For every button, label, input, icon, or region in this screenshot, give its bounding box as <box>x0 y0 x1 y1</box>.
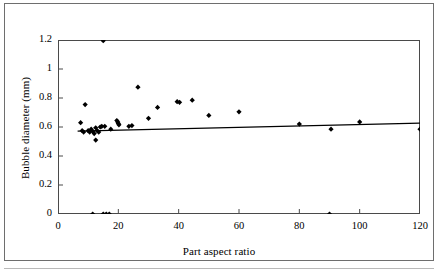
y-axis-title: Bubble diameter (mm) <box>19 41 31 215</box>
data-point-marker <box>357 119 362 124</box>
x-tick-label: 20 <box>98 220 138 231</box>
x-axis-title: Part aspect ratio <box>0 245 438 257</box>
y-tick-label: 1.2 <box>12 33 52 44</box>
data-point-marker <box>90 211 95 214</box>
data-point-marker <box>78 120 83 125</box>
data-point-marker <box>206 113 211 118</box>
y-tick-label: 0 <box>12 207 52 218</box>
data-point-marker <box>146 116 151 121</box>
x-tick-label: 80 <box>279 220 319 231</box>
data-point-marker <box>135 85 140 90</box>
scatter-plot-svg <box>58 40 420 214</box>
y-tick-label: 0.6 <box>12 120 52 131</box>
data-point-marker <box>155 105 160 110</box>
x-tick-label: 0 <box>38 220 78 231</box>
x-tick-label: 60 <box>219 220 259 231</box>
data-point-marker <box>101 40 106 43</box>
data-point-marker <box>328 127 333 132</box>
data-point-marker <box>236 109 241 114</box>
x-tick-label: 40 <box>159 220 199 231</box>
x-tick-label: 100 <box>340 220 380 231</box>
y-tick-label: 0.2 <box>12 178 52 189</box>
data-point-marker <box>83 102 88 107</box>
figure-bottom-rule <box>4 268 434 269</box>
data-point-marker <box>102 124 107 129</box>
data-point-marker <box>93 137 98 142</box>
y-tick-label: 1 <box>12 62 52 73</box>
data-point-marker <box>190 98 195 103</box>
data-point-marker <box>108 127 113 132</box>
y-tick-label: 0.4 <box>12 149 52 160</box>
data-point-marker <box>327 211 332 214</box>
x-tick-label: 120 <box>400 220 438 231</box>
y-tick-label: 0.8 <box>12 91 52 102</box>
chart-figure: 00.20.40.60.811.2 020406080100120 Bubble… <box>0 0 438 274</box>
plot-area <box>58 40 420 214</box>
data-point-marker <box>417 127 420 132</box>
